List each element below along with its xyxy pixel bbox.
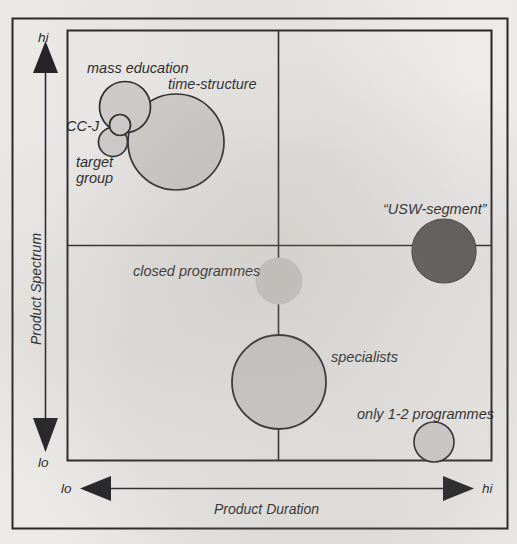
figure-page: mass education time-structure CC-J targe…: [0, 0, 517, 544]
y-axis-arrow-down-icon: [33, 418, 58, 452]
bubble-closed-programmes[interactable]: [256, 258, 302, 304]
x-axis-arrow-left-icon: [80, 476, 111, 501]
bubble-label-cc-j: CC-J: [66, 118, 99, 134]
bubble-label-mass-education: mass education: [87, 60, 189, 76]
bubble-label-usw-segment: “USW-segment”: [383, 201, 487, 217]
bubble-label-group: group: [76, 170, 113, 186]
bubble-label-target: target: [76, 154, 113, 170]
bubble-usw-segment[interactable]: [412, 219, 476, 283]
y-axis-lo-label: lo: [38, 455, 49, 470]
y-axis-hi-label: hi: [38, 30, 49, 45]
x-axis-hi-label: hi: [482, 481, 493, 496]
bubble-label-closed-programmes: closed programmes: [133, 263, 260, 279]
bubble-cc-j[interactable]: [110, 115, 131, 136]
bubble-label-specialists: specialists: [331, 349, 398, 365]
bubble-label-only-1-2-programmes: only 1-2 programmes: [357, 406, 494, 422]
y-axis-title: Product Spectrum: [28, 233, 44, 345]
x-axis-lo-label: lo: [61, 481, 72, 496]
x-axis-title: Product Duration: [214, 501, 319, 517]
bubble-label-time-structure: time-structure: [168, 76, 257, 92]
bubble-specialists[interactable]: [232, 335, 326, 429]
x-axis-arrow-right-icon: [443, 476, 474, 501]
bubble-only-1-2-programmes[interactable]: [414, 422, 454, 462]
y-axis-arrow-up-icon: [33, 41, 58, 73]
